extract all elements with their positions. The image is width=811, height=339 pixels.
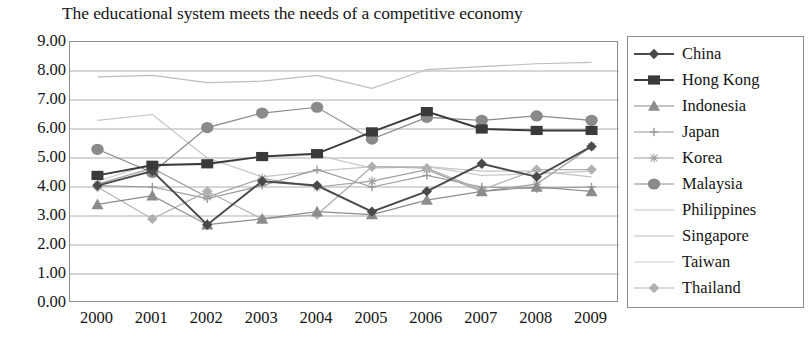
legend-item-philippines[interactable]: Philippines — [632, 197, 803, 223]
legend-item-china[interactable]: China — [632, 41, 803, 67]
y-axis-tick-label: 9.00 — [0, 33, 66, 49]
data-point-marker — [147, 214, 157, 224]
x-axis-tick-label: 2007 — [451, 306, 511, 330]
x-axis-tick-label: 2003 — [231, 306, 291, 330]
legend-marker-icon — [632, 277, 676, 299]
data-point-marker — [256, 107, 268, 118]
data-point-marker — [146, 190, 158, 201]
series-line — [97, 187, 591, 225]
legend-item-korea[interactable]: Korea — [632, 145, 803, 171]
legend-item-indonesia[interactable]: Indonesia — [632, 93, 803, 119]
data-point-marker — [585, 115, 597, 126]
legend-item-label: Hong Kong — [676, 70, 759, 90]
data-point-marker — [201, 159, 213, 168]
data-point-marker — [586, 141, 596, 151]
plot-svg — [70, 42, 619, 303]
data-point-marker — [586, 164, 596, 174]
data-point-marker — [477, 159, 487, 169]
legend-marker-icon — [632, 147, 676, 169]
legend-marker-icon — [632, 95, 676, 117]
data-point-marker — [421, 107, 433, 116]
legend-item-hong-kong[interactable]: Hong Kong — [632, 67, 803, 93]
legend-item-japan[interactable]: Japan — [632, 119, 803, 145]
legend-marker-icon — [632, 121, 676, 143]
data-point-marker — [367, 177, 376, 186]
y-axis-tick-label: 5.00 — [0, 149, 66, 165]
data-point-marker — [531, 181, 543, 192]
series-line — [97, 112, 591, 176]
legend-item-label: Malaysia — [676, 174, 742, 194]
data-point-marker — [650, 128, 658, 136]
data-point-marker — [256, 152, 268, 161]
legend-marker-icon — [632, 199, 676, 221]
data-point-marker — [313, 165, 321, 173]
legend-item-label: Korea — [676, 148, 722, 168]
data-point-marker — [311, 102, 323, 113]
legend-item-label: Singapore — [676, 226, 749, 246]
y-axis-tick-label: 8.00 — [0, 62, 66, 78]
data-point-marker — [649, 283, 659, 293]
data-point-marker — [648, 75, 660, 84]
data-point-marker — [648, 178, 660, 189]
data-point-marker — [91, 171, 103, 180]
legend-item-singapore[interactable]: Singapore — [632, 223, 803, 249]
chart-container: The educational system meets the needs o… — [0, 0, 811, 339]
legend-item-malaysia[interactable]: Malaysia — [632, 171, 803, 197]
page-title: The educational system meets the needs o… — [62, 2, 622, 24]
y-axis-tick-label: 3.00 — [0, 207, 66, 223]
legend-item-thailand[interactable]: Thailand — [632, 275, 803, 301]
plot-area — [69, 41, 618, 302]
series-line — [97, 107, 591, 172]
data-point-marker — [649, 49, 659, 59]
legend-item-label: Taiwan — [676, 252, 730, 272]
y-axis: 9.008.007.006.005.004.003.002.001.000.00 — [0, 41, 66, 302]
legend-item-taiwan[interactable]: Taiwan — [632, 249, 803, 275]
y-axis-tick-label: 7.00 — [0, 91, 66, 107]
x-axis-tick-label: 2008 — [506, 306, 566, 330]
legend: ChinaHong KongIndonesiaJapanKoreaMalaysi… — [627, 36, 804, 308]
legend-item-label: Philippines — [676, 200, 756, 220]
x-axis-tick-label: 2000 — [66, 306, 126, 330]
x-axis-tick-label: 2004 — [286, 306, 346, 330]
legend-marker-icon — [632, 69, 676, 91]
x-axis: 2000200120022003200420052006200720082009 — [69, 306, 618, 334]
legend-marker-icon — [632, 43, 676, 65]
x-axis-tick-label: 2006 — [396, 306, 456, 330]
legend-item-label: Thailand — [676, 278, 741, 298]
data-point-marker — [366, 127, 378, 136]
data-point-marker — [422, 186, 432, 196]
data-point-marker — [476, 115, 488, 126]
x-axis-tick-label: 2009 — [561, 306, 621, 330]
data-point-marker — [91, 144, 103, 155]
y-axis-tick-label: 0.00 — [0, 294, 66, 310]
data-point-marker — [422, 163, 432, 173]
data-point-marker — [531, 126, 543, 135]
x-axis-tick-label: 2005 — [341, 306, 401, 330]
data-point-marker — [201, 122, 213, 133]
data-point-marker — [312, 180, 322, 190]
series-line — [97, 62, 591, 88]
y-axis-tick-label: 6.00 — [0, 120, 66, 136]
data-point-marker — [476, 124, 488, 133]
legend-item-label: China — [676, 44, 721, 64]
data-point-marker — [586, 126, 598, 135]
legend-item-label: Indonesia — [676, 96, 746, 116]
y-axis-tick-label: 1.00 — [0, 265, 66, 281]
data-point-marker — [530, 110, 542, 121]
legend-marker-icon — [632, 173, 676, 195]
y-axis-tick-label: 2.00 — [0, 236, 66, 252]
x-axis-tick-label: 2001 — [121, 306, 181, 330]
data-point-marker — [146, 161, 158, 170]
x-axis-tick-label: 2002 — [176, 306, 236, 330]
legend-marker-icon — [632, 251, 676, 273]
legend-item-label: Japan — [676, 122, 720, 142]
legend-marker-icon — [632, 225, 676, 247]
data-point-marker — [649, 153, 658, 162]
data-point-marker — [311, 149, 323, 158]
y-axis-tick-label: 4.00 — [0, 178, 66, 194]
